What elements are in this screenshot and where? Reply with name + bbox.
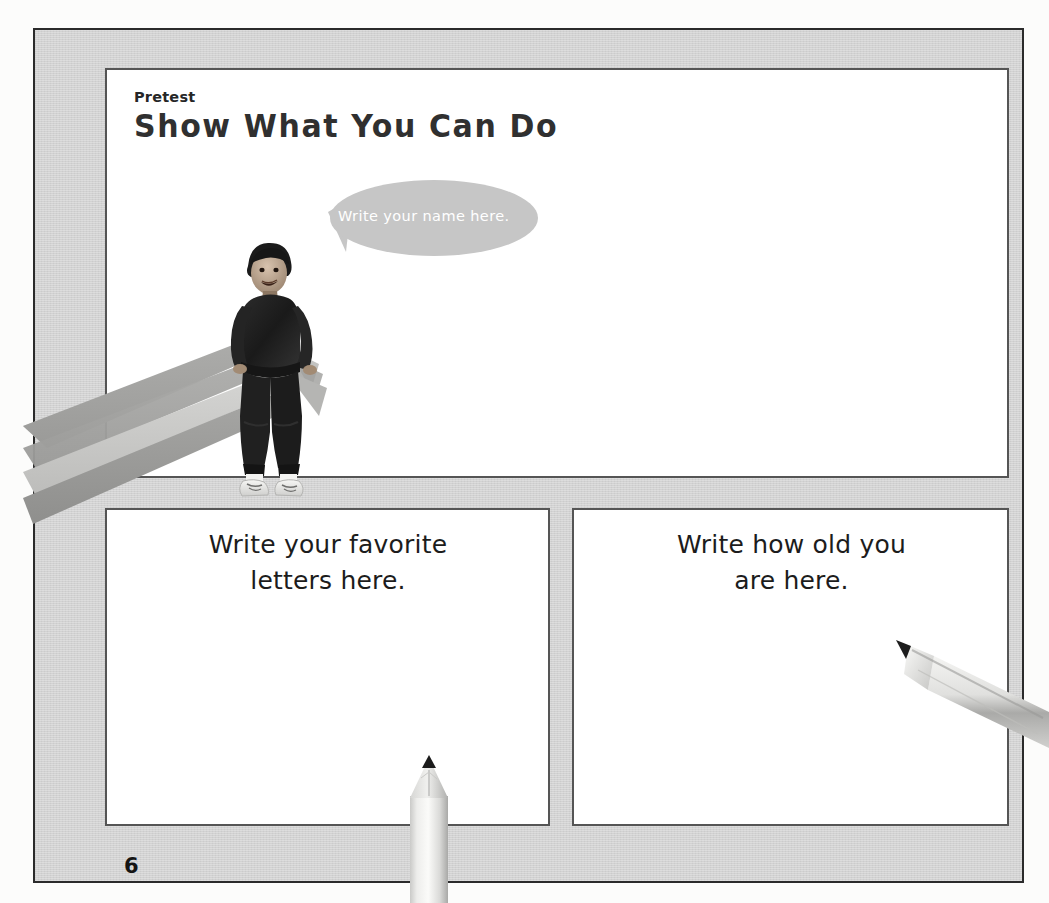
worksheet-page-root: Pretest Show What You Can Do: [0, 0, 1049, 903]
age-prompt: Write how old you are here.: [623, 527, 960, 598]
worksheet-frame: Pretest Show What You Can Do: [33, 28, 1024, 883]
speech-bubble-text: Write your name here.: [338, 209, 520, 225]
prompt-line-1: Write how old you: [623, 527, 960, 563]
page-title: Show What You Can Do: [134, 108, 558, 144]
page-heading: Pretest Show What You Can Do: [134, 90, 558, 142]
prompt-line-1: Write your favorite: [153, 527, 503, 563]
prompt-line-2: are here.: [623, 563, 960, 599]
pretest-label: Pretest: [134, 90, 558, 106]
favorite-letters-prompt: Write your favorite letters here.: [153, 527, 503, 598]
speech-bubble: Write your name here.: [300, 178, 542, 266]
prompt-line-2: letters here.: [153, 563, 503, 599]
page-number: 6: [124, 854, 139, 878]
